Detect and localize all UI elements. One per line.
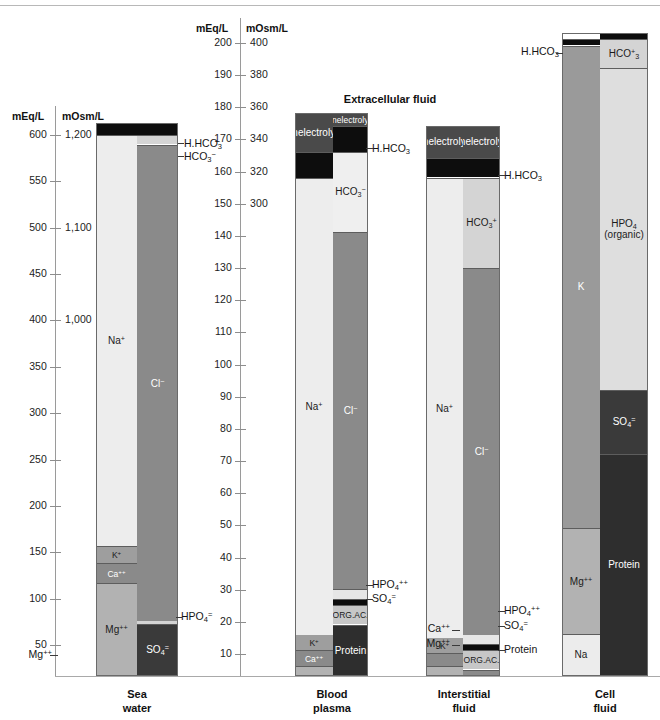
- bar-segment[interactable]: Na+: [295, 178, 333, 635]
- segment-label: HCO+3: [609, 48, 639, 60]
- bar-segment[interactable]: Protein: [333, 625, 368, 676]
- bar-segment[interactable]: [426, 666, 463, 676]
- segment-label: K+: [112, 550, 121, 559]
- bar-segment[interactable]: HCO3−: [333, 152, 368, 232]
- bar-segment[interactable]: [137, 135, 178, 144]
- segment-label: HCO3+: [466, 217, 496, 229]
- bar-segment[interactable]: SO4=: [600, 390, 648, 454]
- segment-label: Cl−: [475, 446, 489, 458]
- callout-seawater-hco3: HCO3−: [184, 150, 254, 164]
- caption-line1: Cell: [595, 688, 615, 700]
- bar-segment[interactable]: [137, 123, 178, 135]
- callout-seawater-hpo4: HPO4=: [181, 610, 251, 624]
- segment-label: Na+: [108, 335, 125, 347]
- callout-plasma-so4: SO4=: [372, 592, 442, 606]
- caption-line1: Blood: [316, 688, 347, 700]
- bar-segment[interactable]: [463, 644, 500, 650]
- bar-segment[interactable]: [333, 126, 368, 152]
- segment-label: SO4=: [613, 416, 636, 428]
- bar-segment[interactable]: Na: [562, 634, 600, 676]
- segment-label: Mg++: [570, 576, 592, 588]
- caption-line2: water: [123, 702, 152, 714]
- segment-label: HPO4(organic): [604, 219, 643, 241]
- caption-blood-plasma: Blood plasma: [292, 688, 372, 716]
- callout-interstitial-ca: Ca++: [406, 622, 450, 634]
- callout-interstitial-hpo4: HPO4++: [504, 604, 584, 618]
- bar-segment[interactable]: Cl−: [463, 268, 500, 635]
- segment-label: Na: [575, 650, 588, 661]
- callout-leader: [178, 143, 184, 144]
- segment-label: ORG.AC.: [333, 611, 368, 620]
- bar-segment[interactable]: HCO+3: [600, 39, 648, 68]
- segment-label: Ca++: [107, 569, 125, 578]
- callout-leader: [498, 175, 505, 176]
- segment-label: Protein: [335, 646, 367, 657]
- segment-label: Na+: [306, 401, 323, 413]
- bar-segment[interactable]: K: [562, 46, 600, 528]
- bar-segment[interactable]: HPO4(organic): [600, 68, 648, 390]
- bar-segment[interactable]: K+: [295, 634, 333, 650]
- bar-segment[interactable]: [562, 39, 600, 45]
- bar-segment[interactable]: K+: [96, 546, 137, 563]
- bar-segment[interactable]: Cl−: [333, 232, 368, 589]
- bar-segment[interactable]: Na+: [426, 178, 463, 638]
- segment-label: ORG.AC.: [464, 656, 500, 665]
- caption-line2: fluid: [452, 702, 475, 714]
- segment-label: Nonelectrolytes: [333, 116, 368, 125]
- bar-segment[interactable]: Mg++: [96, 583, 137, 676]
- segment-label: Ca++: [305, 654, 323, 663]
- bar-columns-layer: Mg++Ca++K+Na+SO4=Cl−Ca++K+Na+Nonelectrol…: [0, 0, 660, 720]
- bar-segment[interactable]: [600, 33, 648, 39]
- bar-segment[interactable]: [295, 152, 333, 178]
- callout-leader: [178, 156, 184, 157]
- bar-segment[interactable]: Ca++: [295, 650, 333, 666]
- bar-segment[interactable]: Na+: [96, 135, 137, 546]
- bar-segment[interactable]: Ca++: [96, 563, 137, 583]
- bar-segment[interactable]: [96, 123, 137, 135]
- caption-interstitial-fluid: Interstitial fluid: [418, 688, 510, 716]
- callout-leader: [176, 617, 182, 618]
- gamble-diagram-figure: mEq/L mOsm/L 600550500450400350300250200…: [0, 0, 660, 720]
- caption-line1: Interstitial: [438, 688, 491, 700]
- bar-segment[interactable]: [295, 666, 333, 676]
- callout-interstitial-hhco3: H.HCO3: [504, 169, 576, 183]
- bar-segment[interactable]: [463, 670, 500, 676]
- callout-interstitial-protein: Protein: [504, 643, 576, 655]
- callout-leader: [366, 585, 373, 586]
- callout-interstitial-mg: Mg++: [406, 637, 450, 649]
- callout-leader: [50, 655, 58, 656]
- callout-plasma-mg: Mg++: [4, 648, 52, 660]
- segment-label: Nonelectrolytes: [463, 137, 500, 148]
- callout-plasma-hhco3: H.HCO3: [372, 142, 444, 156]
- callout-leader: [366, 148, 373, 149]
- callout-leader: [498, 626, 505, 627]
- segment-label: K+: [309, 638, 318, 647]
- segment-label: SO4=: [146, 644, 169, 656]
- bar-segment[interactable]: Nonelectrolytes: [333, 113, 368, 126]
- caption-line1: Sea: [127, 688, 147, 700]
- bar-segment[interactable]: Nonelectrolytes: [463, 126, 500, 158]
- bar-segment[interactable]: Nonelectrolytes: [295, 113, 333, 152]
- caption-cell-fluid: Cell fluid: [565, 688, 645, 716]
- bar-segment[interactable]: [426, 653, 463, 666]
- bar-segment[interactable]: Cl−: [137, 145, 178, 621]
- segment-label: Nonelectrolytes: [295, 128, 333, 139]
- bar-segment[interactable]: [463, 634, 500, 644]
- bar-segment[interactable]: ORG.AC.: [463, 650, 500, 669]
- segment-label: Mg++: [105, 624, 127, 636]
- callout-interstitial-so4: SO4=: [504, 619, 574, 633]
- segment-label: Cl−: [151, 378, 165, 390]
- bar-segment[interactable]: [463, 158, 500, 177]
- caption-line2: plasma: [313, 702, 351, 714]
- callout-leader: [498, 650, 505, 651]
- bar-segment[interactable]: HCO3+: [463, 178, 500, 268]
- callout-leader: [556, 53, 563, 54]
- segment-label: Protein: [608, 560, 640, 571]
- bar-segment[interactable]: Protein: [600, 454, 648, 676]
- bar-segment[interactable]: [333, 599, 368, 605]
- bar-segment[interactable]: SO4=: [137, 624, 178, 676]
- bar-segment[interactable]: [333, 589, 368, 599]
- bar-segment[interactable]: ORG.AC.: [333, 605, 368, 624]
- bar-segment[interactable]: [426, 158, 463, 177]
- segment-label: K: [578, 282, 585, 293]
